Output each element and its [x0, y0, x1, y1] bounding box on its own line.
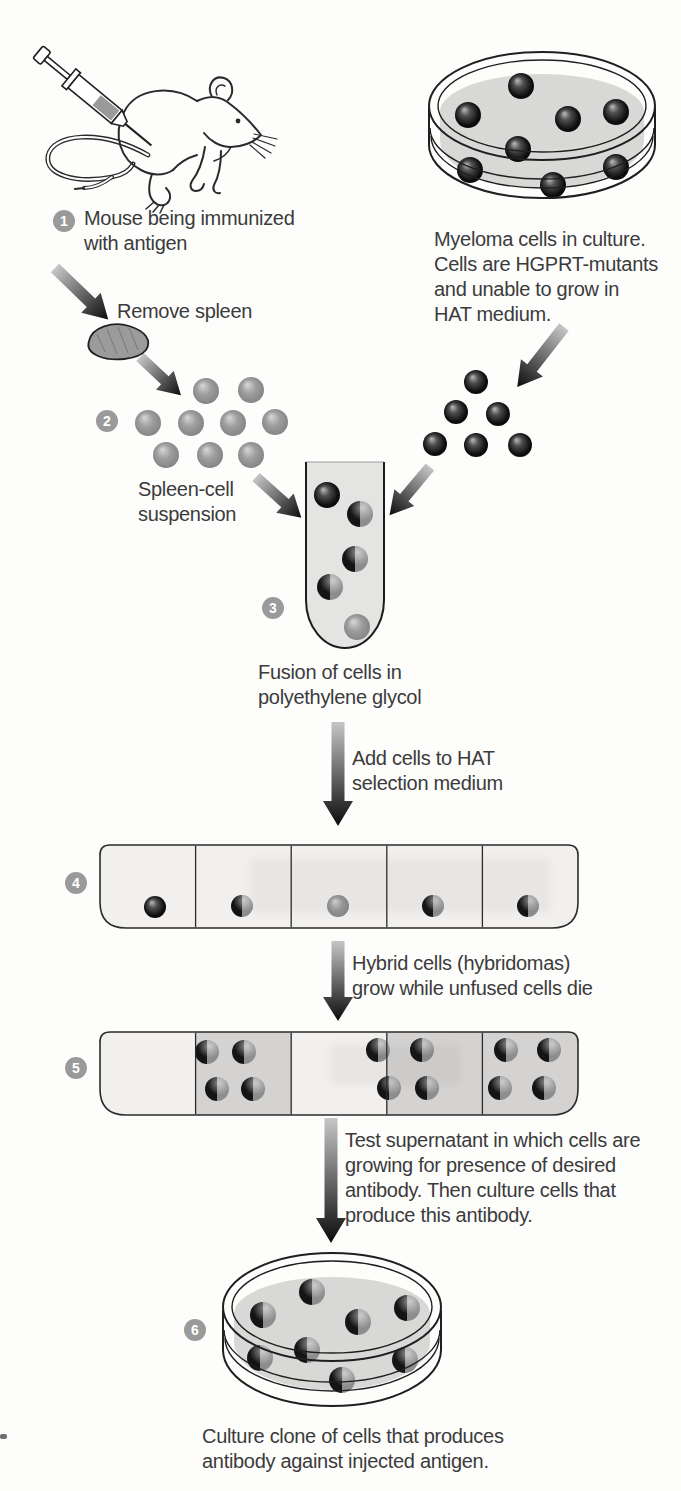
arrow-to-hat-medium — [323, 722, 353, 826]
caption-step1: Mouse being immunized with antigen — [84, 206, 304, 256]
step-badge-2: 2 — [96, 410, 118, 432]
arrow-hybrids-grow — [323, 941, 353, 1021]
caption-step2: Spleen-cell suspension — [138, 477, 288, 527]
caption-test-supernatant: Test supernatant in which cells are grow… — [345, 1128, 675, 1228]
caption-myeloma-dish: Myeloma cells in culture. Cells are HGPR… — [434, 227, 674, 327]
caption-remove-spleen: Remove spleen — [117, 299, 287, 324]
mouse-eye — [236, 119, 241, 124]
arrow-remove-spleen — [45, 258, 118, 330]
spleen-icon — [88, 324, 148, 359]
arrow-test-supernatant — [316, 1118, 346, 1243]
caption-step6: Culture clone of cells that produces ant… — [202, 1424, 562, 1474]
step-badge-3: 3 — [262, 597, 284, 619]
step-badge-6: 6 — [184, 1319, 206, 1341]
arrow-spleen-to-suspension — [131, 347, 190, 404]
arrow-dish-to-cluster — [506, 318, 575, 395]
step-badge-4: 4 — [65, 872, 87, 894]
scan-bleedthrough — [330, 1045, 460, 1085]
step-badge-5: 5 — [65, 1057, 87, 1079]
spleen-cell-suspension — [135, 377, 288, 468]
scan-artifact — [0, 1434, 7, 1439]
scan-bleedthrough — [250, 858, 550, 913]
caption-hybrids-grow: Hybrid cells (hybridomas) grow while unf… — [352, 951, 632, 1001]
petri-dish-clone — [223, 1253, 441, 1406]
step-badge-1: 1 — [53, 210, 75, 232]
fusion-tube — [306, 462, 384, 648]
hybridoma-diagram: 1 2 3 4 5 6 Mouse being immunized with a… — [0, 0, 681, 1491]
petri-dish-myeloma — [429, 52, 655, 198]
caption-step3: Fusion of cells in polyethylene glycol — [258, 660, 458, 710]
arrow-cluster-to-tube — [380, 459, 440, 524]
caption-add-to-hat: Add cells to HAT selection medium — [352, 746, 552, 796]
myeloma-cell-cluster — [423, 370, 532, 457]
